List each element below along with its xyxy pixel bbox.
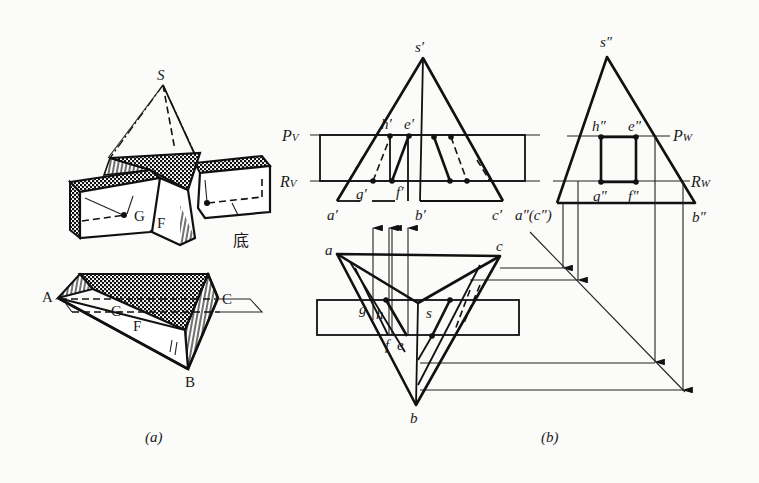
label-g: g <box>359 301 367 317</box>
top-view: a c s b g h f e <box>317 238 519 426</box>
projection-diagram: S G F 底 A B C G F (a) <box>0 0 759 483</box>
label-b-prime: b′ <box>415 207 427 223</box>
label-f-double-prime: f″ <box>628 188 639 204</box>
removed-wedge-pictorial: A B C G F <box>42 274 262 390</box>
side-view: s″ h″ e″ g″ f″ a″(c″) b″ PW RW <box>515 34 711 225</box>
label-h: h <box>376 306 384 322</box>
pyramid-with-slot-pictorial: S G F 底 <box>70 67 270 249</box>
label-s: s <box>426 305 432 321</box>
panel-b-orthographic: s′ a′ b′ c′ h′ e′ g′ f′ PV RV s″ h″ e″ g… <box>279 34 711 446</box>
label-G: G <box>134 208 145 224</box>
label-f: f <box>385 337 391 353</box>
label-c-prime: c′ <box>492 207 503 223</box>
front-view: s′ a′ b′ c′ h′ e′ g′ f′ PV RV <box>279 39 540 223</box>
label-e: e <box>397 337 404 353</box>
label-h-double-prime: h″ <box>592 118 607 134</box>
label-g-double-prime: g″ <box>593 188 608 204</box>
label-e-prime: e′ <box>404 116 415 132</box>
label-h-prime: h′ <box>381 116 393 132</box>
panel-a-pictorial: S G F 底 A B C G F (a) <box>42 67 270 446</box>
label-S: S <box>157 67 165 83</box>
label-G-lower: G <box>111 303 122 319</box>
label-b: b <box>410 410 418 426</box>
label-f-prime: f′ <box>396 184 404 200</box>
label-s-double-prime: s″ <box>600 34 613 50</box>
label-C: C <box>222 291 232 307</box>
label-F-lower: F <box>133 318 141 334</box>
label-s-prime: s′ <box>415 39 425 55</box>
label-B: B <box>185 374 195 390</box>
label-a-prime: a′ <box>327 207 339 223</box>
label-F: F <box>157 215 165 231</box>
caption-a: (a) <box>145 429 163 446</box>
label-Pw: PW <box>672 127 693 144</box>
label-Rv: RV <box>279 173 298 190</box>
caption-b: (b) <box>541 429 559 446</box>
label-c: c <box>496 238 503 254</box>
label-Pv: PV <box>281 127 300 144</box>
label-b-double-prime: b″ <box>692 209 707 225</box>
label-e-double-prime: e″ <box>628 118 642 134</box>
label-g-prime: g′ <box>356 186 368 202</box>
label-A: A <box>42 289 53 305</box>
label-base: 底 <box>233 232 249 249</box>
label-a: a <box>325 242 333 258</box>
label-Rw: RW <box>690 173 711 190</box>
label-ac-double-prime: a″(c″) <box>515 207 552 224</box>
